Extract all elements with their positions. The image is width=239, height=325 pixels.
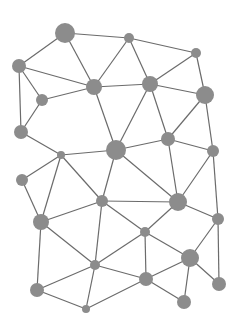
node-I	[14, 125, 28, 139]
node-V	[139, 272, 153, 286]
edge-B-C	[129, 38, 196, 53]
node-Q	[33, 214, 49, 230]
node-F	[142, 76, 158, 92]
edge-F-J	[150, 84, 168, 139]
node-K	[57, 151, 65, 159]
node-D	[12, 59, 26, 73]
node-L	[106, 140, 126, 160]
edge-L-P	[116, 150, 178, 202]
network-diagram	[0, 0, 239, 325]
node-J	[161, 132, 175, 146]
edge-K-Q	[41, 155, 61, 222]
edge-E-F	[94, 84, 150, 87]
node-U	[90, 260, 100, 270]
edge-O-Q	[41, 201, 102, 222]
edge-D-I	[19, 66, 21, 132]
edge-Y-V	[86, 279, 146, 309]
node-H	[36, 94, 48, 106]
edge-Q-W	[37, 222, 41, 290]
edge-O-P	[102, 201, 178, 202]
edge-U-W	[37, 265, 95, 290]
node-N	[16, 174, 28, 186]
edge-U-Y	[86, 265, 95, 309]
edge-B-E	[94, 38, 129, 87]
node-S	[140, 227, 150, 237]
edge-O-S	[102, 201, 145, 232]
edge-M-R	[213, 151, 218, 219]
edge-M-P	[178, 151, 213, 202]
node-R	[212, 213, 224, 225]
edge-S-V	[145, 232, 146, 279]
node-T	[181, 249, 199, 267]
node-W	[30, 283, 44, 297]
node-X	[212, 277, 226, 291]
edge-H-E	[42, 87, 94, 100]
node-A	[55, 23, 75, 43]
node-C	[191, 48, 201, 58]
edge-U-V	[95, 265, 146, 279]
node-M	[207, 145, 219, 157]
edge-Q-U	[41, 222, 95, 265]
node-G	[196, 86, 214, 104]
edge-K-O	[61, 155, 102, 201]
edge-W-Y	[37, 290, 86, 309]
node-E	[86, 79, 102, 95]
node-P	[169, 193, 187, 211]
node-B	[124, 33, 134, 43]
edge-C-F	[150, 53, 196, 84]
edge-R-X	[218, 219, 219, 284]
edge-J-P	[168, 139, 178, 202]
edge-O-U	[95, 201, 102, 265]
edge-F-L	[116, 84, 150, 150]
edge-layer	[19, 33, 219, 309]
edge-E-L	[94, 87, 116, 150]
node-layer	[12, 23, 226, 313]
edge-D-E	[19, 66, 94, 87]
node-Z	[177, 295, 191, 309]
node-O	[96, 195, 108, 207]
node-Y	[82, 305, 90, 313]
edge-S-U	[95, 232, 145, 265]
